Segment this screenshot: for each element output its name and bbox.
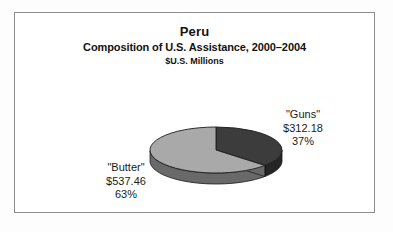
chart-units-label: $U.S. Millions (15, 55, 374, 67)
slice-label-butter-percent: 63% (85, 188, 167, 202)
slice-label-guns-name: "Guns" (264, 108, 342, 122)
slice-label-guns-value: $312.18 (264, 122, 342, 136)
slice-label-butter-value: $537.46 (85, 175, 167, 189)
title-block: Peru Composition of U.S. Assistance, 200… (15, 24, 374, 67)
scanned-page: Peru Composition of U.S. Assistance, 200… (0, 0, 393, 232)
page-title: Peru (15, 24, 374, 39)
figure-frame: Peru Composition of U.S. Assistance, 200… (14, 12, 375, 213)
slice-label-guns-percent: 37% (264, 135, 342, 149)
pie-top-face (150, 127, 282, 173)
chart-subtitle: Composition of U.S. Assistance, 2000–200… (15, 40, 374, 54)
slice-label-butter: "Butter" $537.46 63% (85, 161, 167, 202)
slice-label-butter-name: "Butter" (85, 161, 167, 175)
slice-label-guns: "Guns" $312.18 37% (264, 108, 342, 149)
